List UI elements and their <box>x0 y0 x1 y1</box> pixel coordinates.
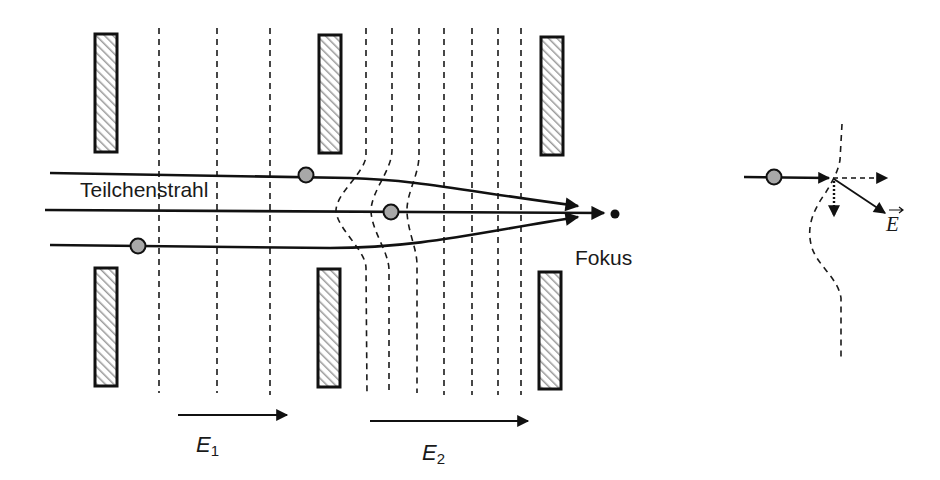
field-e1-subscript: 1 <box>211 442 219 459</box>
electrode-3-bottom <box>539 272 561 389</box>
focus-point <box>611 210 620 219</box>
electrostatic-lens-diagram: Teilchenstrahl Fokus E1 E2 E <box>0 0 940 480</box>
field-detail-inset: E <box>744 124 903 358</box>
electrode-1-bottom <box>95 268 117 386</box>
field-e1-label: E1 <box>196 432 219 459</box>
detail-field-line <box>810 124 842 358</box>
detail-field-vector <box>834 179 885 213</box>
electrode-1-top <box>95 34 117 152</box>
electrode-2-top <box>319 35 341 153</box>
detail-field-label: E <box>885 212 899 236</box>
beam-lower <box>50 217 578 248</box>
particle-axis <box>384 205 399 220</box>
field-e2-subscript: 2 <box>437 450 445 467</box>
field-e2-label: E2 <box>422 440 445 467</box>
beam-label: Teilchenstrahl <box>80 178 208 201</box>
beam-axis <box>45 210 604 213</box>
field-e1-letter: E <box>196 432 211 457</box>
electrode-3-top <box>541 37 563 155</box>
detail-beam <box>744 177 829 178</box>
particle-upper <box>299 168 314 183</box>
field-e2-letter: E <box>422 440 437 465</box>
focus-label: Fokus <box>575 246 632 269</box>
electrode-2-bottom <box>318 269 340 387</box>
particle-lower <box>131 239 146 254</box>
field-line-e2-3 <box>407 28 419 393</box>
detail-particle <box>767 170 782 185</box>
